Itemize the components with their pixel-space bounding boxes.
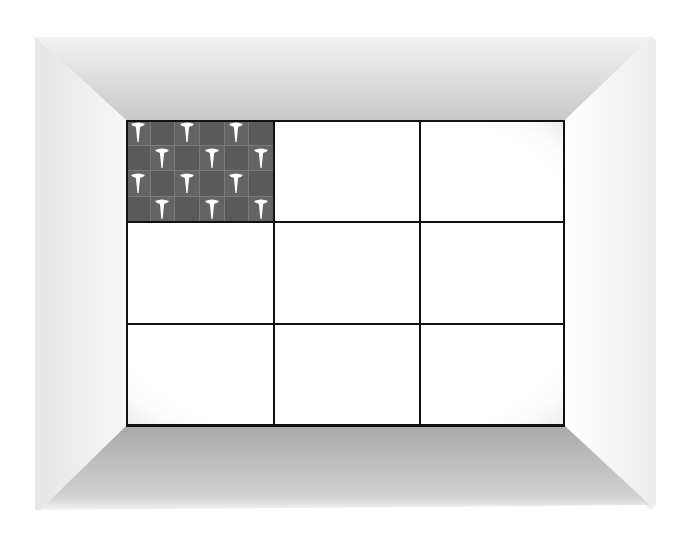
grid-cell-1-1[interactable]	[274, 222, 420, 324]
t-shape-icon	[130, 172, 146, 194]
t-shape-icon	[204, 147, 220, 169]
tile-subcell	[126, 197, 151, 223]
tile-subcell	[200, 197, 225, 223]
grid-border-bottom	[126, 424, 565, 427]
tile-subcell	[200, 171, 225, 197]
tile-subcell	[126, 146, 151, 172]
grid-cell-2-2[interactable]	[420, 324, 565, 426]
tile-subcell	[175, 171, 200, 197]
t-shape-icon	[154, 198, 170, 220]
t-shape-icon	[228, 121, 244, 143]
t-shape-icon	[253, 147, 269, 169]
tile-subcell	[151, 197, 176, 223]
grid-cell-0-0[interactable]	[126, 120, 274, 222]
tile-subcell	[225, 171, 250, 197]
t-shape-icon	[228, 172, 244, 194]
grid-line-v2	[419, 120, 421, 427]
grid-border-right	[563, 120, 565, 427]
ceiling	[35, 37, 652, 120]
tile-subcell	[175, 146, 200, 172]
grid-cell-1-2[interactable]	[420, 222, 565, 324]
grid-cell-0-2[interactable]	[420, 120, 565, 222]
t-shape-icon	[179, 121, 195, 143]
tile-subcell	[249, 197, 274, 223]
grid-line-h2	[126, 323, 565, 325]
grid-line-h1	[126, 221, 565, 223]
patterned-tile[interactable]	[126, 120, 274, 222]
grid-border-top	[126, 120, 565, 122]
grid-border-left	[126, 120, 128, 427]
tile-subcell	[225, 197, 250, 223]
tile-subcell	[126, 171, 151, 197]
tile-subcell	[126, 120, 151, 146]
tile-subcell	[200, 146, 225, 172]
t-shape-icon	[130, 121, 146, 143]
tile-subcell	[175, 120, 200, 146]
tile-subcell	[249, 146, 274, 172]
grid-cell-2-0[interactable]	[126, 324, 274, 426]
tile-subcell	[249, 120, 274, 146]
grid-line-v1	[273, 120, 275, 427]
tile-subcell	[200, 120, 225, 146]
tile-subcell	[151, 146, 176, 172]
tile-subcell	[249, 171, 274, 197]
grid-cell-1-0[interactable]	[126, 222, 274, 324]
tile-subcell	[175, 197, 200, 223]
left-wall	[35, 37, 126, 510]
grid-cell-2-1[interactable]	[274, 324, 420, 426]
board-grid	[126, 120, 565, 426]
tile-subcell	[225, 120, 250, 146]
t-shape-icon	[204, 198, 220, 220]
t-shape-icon	[179, 172, 195, 194]
t-shape-icon	[253, 198, 269, 220]
tile-subcell	[151, 171, 176, 197]
tile-subcell	[225, 146, 250, 172]
floor	[40, 426, 650, 510]
grid-cell-0-1[interactable]	[274, 120, 420, 222]
tile-subcell	[151, 120, 176, 146]
t-shape-icon	[154, 147, 170, 169]
